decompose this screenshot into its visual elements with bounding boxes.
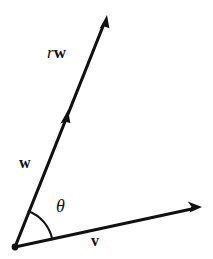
label-theta: θ <box>56 197 65 215</box>
vector-rw-arrowhead <box>100 15 110 28</box>
label-rw: rw <box>47 44 66 61</box>
label-rw-vector: w <box>54 43 66 62</box>
vector-v <box>15 202 202 247</box>
origin-point <box>12 244 19 251</box>
label-v: v <box>91 233 99 249</box>
vector-v-shaft <box>15 209 194 248</box>
vector-diagram: rw w v θ <box>0 0 213 259</box>
vector-diagram-canvas <box>0 0 213 259</box>
label-w: w <box>19 155 31 171</box>
label-rw-scalar: r <box>47 43 54 62</box>
angle-arc <box>29 211 53 239</box>
